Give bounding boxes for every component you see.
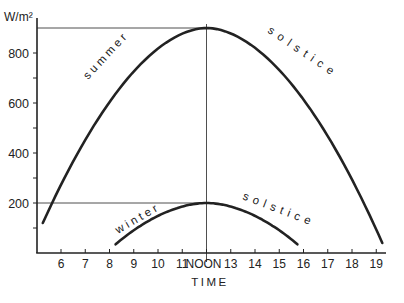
solar-irradiance-chart: 20040060080067891011NOON13141516171819 s…: [0, 0, 404, 303]
x-tick-label: 13: [224, 257, 238, 271]
x-tick-label: 7: [82, 257, 89, 271]
axes: 20040060080067891011NOON13141516171819: [8, 18, 386, 271]
x-tick-label: 18: [345, 257, 359, 271]
x-tick-label: 8: [106, 257, 113, 271]
x-tick-label: 10: [151, 257, 165, 271]
y-tick-label: 200: [8, 197, 29, 211]
x-tick-label: 19: [370, 257, 384, 271]
x-tick-label: NOON: [186, 257, 222, 271]
y-axis-label: W/m²: [4, 10, 33, 24]
summer-solstice-label: solstice: [266, 24, 341, 80]
x-tick-label: 9: [130, 257, 137, 271]
x-tick-label: 16: [297, 257, 311, 271]
x-tick-label: 17: [321, 257, 335, 271]
x-tick-label: 14: [248, 257, 262, 271]
x-tick-label: 15: [273, 257, 287, 271]
y-tick-label: 400: [8, 147, 29, 161]
x-axis-label: TIME: [191, 276, 228, 288]
winter-solstice-label: solstice: [241, 190, 317, 229]
y-tick-label: 800: [8, 47, 29, 61]
summer-label: summer: [81, 29, 131, 82]
x-tick-label: 6: [58, 257, 65, 271]
y-tick-label: 600: [8, 97, 29, 111]
